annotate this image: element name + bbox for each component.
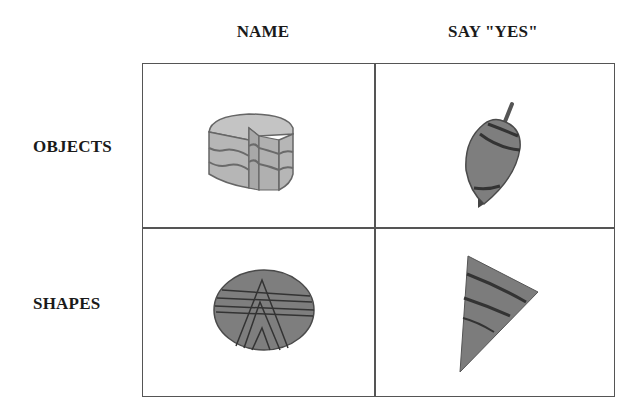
column-header-say-yes: SAY "YES" xyxy=(448,22,538,42)
striped-oval-icon xyxy=(212,268,318,352)
row-header-shapes: SHAPES xyxy=(33,294,100,314)
spinning-top-icon xyxy=(460,100,530,215)
grid-divider-horizontal xyxy=(143,227,614,229)
column-header-name: NAME xyxy=(237,22,290,42)
cake-icon xyxy=(205,110,305,195)
striped-triangle-icon xyxy=(458,254,548,374)
row-header-objects: OBJECTS xyxy=(33,137,112,157)
grid-divider-vertical xyxy=(374,64,376,396)
